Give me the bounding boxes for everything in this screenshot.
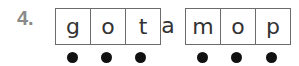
letter-cell: o [91,9,126,44]
letter-cell: t [126,9,160,44]
letter-cell: m [186,9,221,44]
letter-box-group-2: m o p [185,8,291,45]
sound-dot-icon [231,52,242,63]
letter-cell: g [56,9,91,44]
sound-dot-icon [67,52,78,63]
sound-dot-icon [197,52,208,63]
sound-dot-icon [266,52,277,63]
letter-cell: p [256,9,290,44]
letter-cell: o [221,9,256,44]
sound-dot-icon [135,52,146,63]
exercise-number: 4. [17,7,34,30]
letter-box-group-1: g o t [55,8,161,45]
sound-dot-icon [101,52,112,63]
loose-letter: a [158,8,178,43]
